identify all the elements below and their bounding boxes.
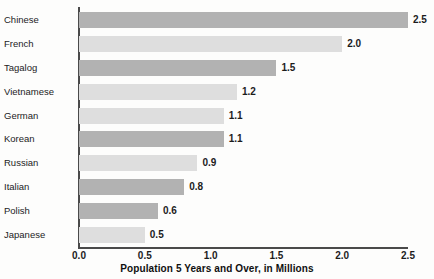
bar-value-label: 0.9	[202, 158, 216, 168]
y-axis-label-7: Italian	[4, 182, 68, 192]
bar-row: 2.0	[79, 36, 408, 52]
bar-segment	[79, 131, 224, 147]
bar-chart: Chinese French Tagalog Vietnamese German…	[0, 0, 434, 279]
plot-area: 2.5 2.0 1.5 1.2 1.1 1.1 0.9 0.8	[79, 8, 408, 247]
bar-row: 2.5	[79, 12, 408, 28]
bar-segment	[79, 36, 342, 52]
bar-value-label: 2.5	[413, 15, 427, 25]
y-axis-label-1: French	[4, 39, 68, 49]
bar-row: 0.6	[79, 203, 408, 219]
bar-value-label: 1.2	[242, 87, 256, 97]
bar-segment	[79, 203, 158, 219]
bar-value-label: 1.5	[281, 63, 295, 73]
y-axis-label-3: Vietnamese	[4, 87, 68, 97]
y-axis-label-2: Tagalog	[4, 63, 68, 73]
x-axis-tick-5: 2.5	[401, 250, 415, 262]
bar-segment	[79, 155, 197, 171]
bar-row: 0.8	[79, 179, 408, 195]
bar-row: 0.9	[79, 155, 408, 171]
y-axis-label-8: Polish	[4, 206, 68, 216]
x-axis-tick-1: 0.5	[138, 250, 152, 262]
y-axis-category-labels: Chinese French Tagalog Vietnamese German…	[0, 8, 74, 247]
y-axis-label-5: Korean	[4, 134, 68, 144]
bar-segment	[79, 179, 184, 195]
bar-segment	[79, 108, 224, 124]
bar-row: 0.5	[79, 227, 408, 243]
x-axis-tick-labels: 0.0 0.5 1.0 1.5 2.0 2.5	[0, 250, 434, 264]
x-axis-tick-2: 1.0	[204, 250, 218, 262]
bar-segment	[79, 227, 145, 243]
x-axis-tick-4: 2.0	[335, 250, 349, 262]
x-axis-line	[78, 247, 408, 249]
bar-value-label: 1.1	[229, 134, 243, 144]
bar-value-label: 0.8	[189, 182, 203, 192]
bar-value-label: 0.6	[163, 206, 177, 216]
y-axis-label-0: Chinese	[4, 15, 68, 25]
bar-row: 1.5	[79, 60, 408, 76]
x-axis-tick-3: 1.5	[269, 250, 283, 262]
bar-segment	[79, 60, 276, 76]
bar-segment	[79, 84, 237, 100]
bar-value-label: 2.0	[347, 39, 361, 49]
y-axis-label-9: Japanese	[4, 230, 68, 240]
bar-segment	[79, 12, 408, 28]
y-axis-label-6: Russian	[4, 158, 68, 168]
bar-row: 1.2	[79, 84, 408, 100]
bar-row: 1.1	[79, 108, 408, 124]
bar-value-label: 0.5	[150, 230, 164, 240]
x-axis-title: Population 5 Years and Over, in Millions	[0, 263, 434, 274]
x-axis-tick-0: 0.0	[72, 250, 86, 262]
bar-row: 1.1	[79, 131, 408, 147]
y-axis-label-4: German	[4, 111, 68, 121]
bar-value-label: 1.1	[229, 111, 243, 121]
